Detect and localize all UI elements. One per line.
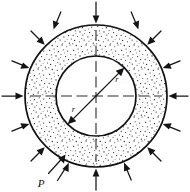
cylinder-cross-section-figure: P r r	[0, 0, 190, 192]
pressure-label: P	[37, 177, 45, 189]
figure-container: P r r	[0, 0, 190, 192]
